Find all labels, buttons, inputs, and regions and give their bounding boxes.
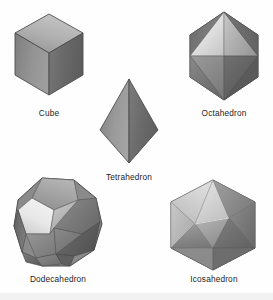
caption-dodecahedron: Dodecahedron — [8, 274, 108, 284]
solid-tetrahedron — [98, 77, 160, 165]
icosahedron-bottom-left-face — [171, 248, 213, 270]
tetrahedron-right-face — [129, 79, 158, 163]
caption-octahedron: Octahedron — [186, 108, 262, 118]
solid-cube — [13, 12, 85, 98]
solid-icosahedron — [165, 178, 261, 272]
solid-octahedron — [186, 10, 262, 102]
tetrahedron-left-face — [100, 79, 129, 163]
caption-cube: Cube — [13, 108, 85, 118]
bottom-edge-band — [0, 293, 273, 300]
solid-dodecahedron — [12, 176, 104, 270]
caption-icosahedron: Icosahedron — [166, 274, 262, 284]
icosahedron-bottom-right-face — [213, 248, 255, 270]
platonic-solids-figure: Cube — [0, 0, 273, 300]
